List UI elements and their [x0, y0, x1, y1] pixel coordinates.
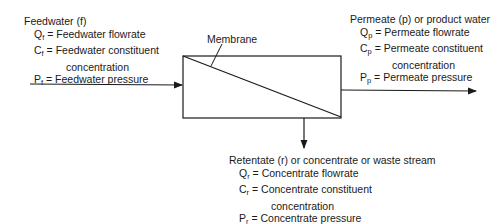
permeate-legend: Permeate (p) or product water Qp = Perme…: [350, 13, 490, 88]
membrane-label: Membrane: [207, 33, 257, 45]
permeate-arrow: [341, 90, 476, 91]
membrane-line: [183, 56, 341, 117]
retentate-flowrate: Qr = Concentrate flowrate: [229, 167, 436, 184]
permeate-concentration: Cp = Permeate constituent: [350, 42, 490, 59]
feedwater-pressure: Pf = Feedwater pressure: [24, 73, 159, 90]
permeate-pressure: Pp = Permeate pressure: [350, 71, 490, 88]
feedwater-legend: Feedwater (f) Qf = Feedwater flowrate Cf…: [24, 15, 159, 90]
feedwater-flowrate: Qf = Feedwater flowrate: [24, 28, 159, 45]
permeate-flowrate: Qp = Permeate flowrate: [350, 26, 490, 43]
feedwater-concentration: Cf = Feedwater constituent: [24, 44, 159, 61]
permeate-title: Permeate (p) or product water: [350, 13, 490, 26]
membrane-leader-line: [211, 44, 222, 66]
retentate-concentration: Cr = Concentrate constituent: [229, 183, 436, 200]
retentate-title: Retentate (r) or concentrate or waste st…: [229, 154, 436, 167]
retentate-legend: Retentate (r) or concentrate or waste st…: [229, 154, 436, 224]
feedwater-title: Feedwater (f): [24, 15, 159, 28]
retentate-pressure: Pr = Concentrate pressure: [229, 212, 436, 224]
